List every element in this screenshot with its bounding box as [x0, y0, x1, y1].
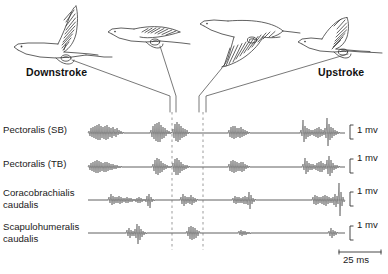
amplitude-bracket-3: [350, 192, 353, 206]
emg-figure: Downstroke Upstroke: [0, 0, 388, 274]
amplitude-scale-label-1: 1 mv: [357, 124, 378, 135]
time-scale-label: 25 ms: [343, 254, 369, 265]
channel-label-coracobrachialis-caudalis: Coracobrachialiscaudalis: [3, 187, 74, 210]
amplitude-bracket-2: [350, 159, 353, 173]
amplitude-scale-label-2: 1 mv: [357, 152, 378, 163]
amplitude-bracket-1: [350, 125, 353, 139]
channel-label-pectoralis-tb: Pectoralis (TB): [3, 158, 66, 170]
amplitude-scale-label-4: 1 mv: [357, 219, 378, 230]
channel-label-pectoralis-sb: Pectoralis (SB): [3, 124, 67, 136]
channel-label-scapulohumeralis-caudalis: Scapulohumeraliscaudalis: [3, 221, 79, 244]
amplitude-scale-label-3: 1 mv: [357, 185, 378, 196]
amplitude-bracket-4: [350, 226, 353, 240]
